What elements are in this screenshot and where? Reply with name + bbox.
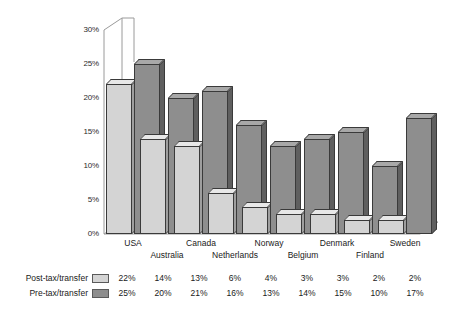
value-pre-denmark: 15% — [330, 287, 356, 300]
value-post-belgium: 3% — [294, 272, 320, 285]
bar-finland-post-tax[interactable] — [344, 220, 370, 234]
bar-front-face — [406, 118, 432, 234]
value-pre-australia: 20% — [150, 287, 176, 300]
category-label-denmark: Denmark — [308, 238, 366, 248]
bar-front-face — [242, 207, 268, 234]
bar-belgium-post-tax[interactable] — [276, 214, 302, 234]
legend-row-pre-tax: Pre-tax/transfer 25% 20% 21% 16% 13% 14%… — [0, 287, 451, 300]
post-tax-swatch-icon — [92, 274, 109, 283]
value-post-norway: 4% — [258, 272, 284, 285]
bar-australia-post-tax[interactable] — [140, 139, 166, 234]
bar-front-face — [310, 214, 336, 234]
category-label-norway: Norway — [241, 238, 297, 248]
category-label-canada: Canada — [173, 238, 229, 248]
bar-usa-post-tax[interactable] — [106, 84, 132, 234]
legend-row-post-tax: Post-tax/transfer 22% 14% 13% 6% 4% 3% 3… — [0, 272, 451, 285]
category-label-netherlands: Netherlands — [200, 250, 270, 260]
value-post-netherlands: 6% — [222, 272, 248, 285]
value-post-sweden: 2% — [402, 272, 428, 285]
category-label-usa: USA — [105, 238, 161, 248]
bar-denmark-post-tax[interactable] — [310, 214, 336, 234]
value-pre-finland: 10% — [366, 287, 392, 300]
category-label-belgium: Belgium — [273, 250, 333, 260]
category-label-australia: Australia — [137, 250, 197, 260]
bar-side-face — [432, 113, 437, 234]
bar-front-face — [276, 214, 302, 234]
value-pre-netherlands: 16% — [222, 287, 248, 300]
value-pre-usa: 25% — [114, 287, 140, 300]
value-post-australia: 14% — [150, 272, 176, 285]
bar-front-face — [106, 84, 132, 234]
bar-sweden-post-tax[interactable] — [378, 220, 404, 234]
legend-data-table: Post-tax/transfer 22% 14% 13% 6% 4% 3% 3… — [0, 272, 451, 312]
bar-netherlands-post-tax[interactable] — [208, 193, 234, 234]
legend-label-post-tax: Post-tax/transfer — [8, 272, 88, 285]
value-post-finland: 2% — [366, 272, 392, 285]
bar-front-face — [378, 220, 404, 234]
category-label-sweden: Sweden — [376, 238, 434, 248]
value-pre-norway: 13% — [258, 287, 284, 300]
plot-area: 30% 25% 20% 15% 10% 5% 0% — [0, 0, 451, 250]
bar-canada-post-tax[interactable] — [174, 146, 200, 234]
value-pre-canada: 21% — [186, 287, 212, 300]
bar-front-face — [344, 220, 370, 234]
value-post-usa: 22% — [114, 272, 140, 285]
value-pre-sweden: 17% — [402, 287, 428, 300]
bar-sweden-pre-tax[interactable] — [406, 118, 432, 234]
category-label-finland: Finland — [341, 250, 399, 260]
bar-front-face — [174, 146, 200, 234]
value-pre-belgium: 14% — [294, 287, 320, 300]
bars-layer — [0, 0, 451, 250]
bar-front-face — [208, 193, 234, 234]
bar-front-face — [140, 139, 166, 234]
bar-chart: 30% 25% 20% 15% 10% 5% 0% — [0, 0, 451, 318]
value-post-canada: 13% — [186, 272, 212, 285]
legend-label-pre-tax: Pre-tax/transfer — [8, 287, 88, 300]
bar-norway-post-tax[interactable] — [242, 207, 268, 234]
pre-tax-swatch-icon — [92, 289, 109, 298]
value-post-denmark: 3% — [330, 272, 356, 285]
